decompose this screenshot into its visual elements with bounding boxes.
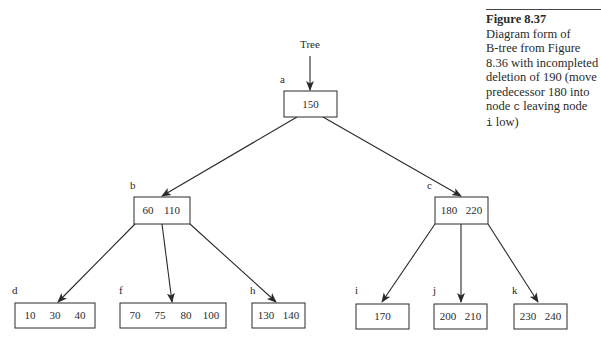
node-d-key: 40 (75, 309, 87, 321)
node-f-key: 75 (155, 309, 167, 321)
node-c-label: c (427, 179, 432, 191)
edge-c-i (382, 224, 435, 302)
edge-a-b (162, 117, 297, 196)
caption-rule (486, 9, 601, 10)
node-i: i 170 (355, 284, 409, 329)
node-f-key: 70 (130, 309, 142, 321)
node-b-label: b (130, 179, 136, 191)
edge-b-h (190, 224, 276, 302)
node-i-label: i (355, 284, 358, 296)
node-j-label: j (432, 284, 436, 296)
tree-root-label: Tree (300, 38, 320, 50)
caption-line: Diagram form of (486, 27, 601, 42)
node-c-key: 180 (441, 204, 458, 216)
node-d-label: d (12, 284, 18, 296)
node-j-key: 210 (465, 310, 482, 322)
caption-text: leaving node (520, 99, 587, 113)
caption-line: i low) (486, 115, 601, 131)
edge-b-d (58, 224, 135, 302)
node-k: k 230 240 (512, 284, 567, 329)
caption-line: node c leaving node (486, 99, 601, 115)
caption-line: deletion of 190 (move (486, 70, 601, 85)
figure-caption: Figure 8.37 Diagram form of B-tree from … (486, 9, 601, 130)
node-i-key: 170 (374, 310, 391, 322)
node-k-key: 240 (545, 310, 562, 322)
node-f-key: 80 (181, 309, 193, 321)
figure-title: Figure 8.37 (486, 12, 601, 27)
node-b-key: 110 (164, 204, 181, 216)
node-f-label: f (119, 284, 123, 296)
node-d-key: 30 (50, 309, 62, 321)
node-b: b 60 110 (130, 179, 190, 224)
node-a-label: a (280, 73, 285, 85)
edge-a-c (323, 117, 461, 196)
node-h-label: h (250, 284, 256, 296)
node-b-key: 60 (143, 204, 155, 216)
node-f: f 70 75 80 100 (119, 284, 226, 328)
caption-line: 8.36 with incompleted (486, 56, 601, 71)
node-h: h 130 140 (250, 284, 305, 328)
node-f-key: 100 (203, 309, 220, 321)
caption-line: predecessor 180 into (486, 85, 601, 100)
node-h-key: 130 (258, 309, 275, 321)
node-a: a 150 (280, 73, 337, 117)
node-c: c 180 220 (427, 179, 488, 224)
node-j: j 200 210 (432, 284, 487, 329)
edge-b-f (162, 224, 172, 302)
node-d: d 10 30 40 (12, 284, 95, 328)
caption-code-node-i: i (486, 117, 493, 129)
caption-line: B-tree from Figure (486, 41, 601, 56)
node-d-key: 10 (25, 309, 37, 321)
node-h-key: 140 (283, 309, 300, 321)
caption-text: node (486, 99, 513, 113)
node-k-label: k (512, 284, 518, 296)
node-k-key: 230 (520, 310, 537, 322)
node-a-key: 150 (302, 98, 319, 110)
node-j-key: 200 (440, 310, 457, 322)
node-c-key: 220 (466, 204, 483, 216)
caption-text: low) (493, 115, 519, 129)
